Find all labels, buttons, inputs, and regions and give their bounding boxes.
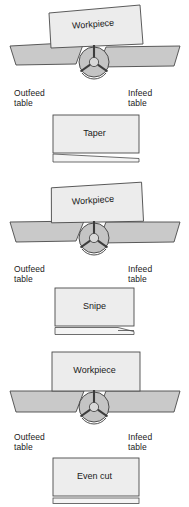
taper-wedge-shape bbox=[53, 154, 139, 162]
machine-illustration-even-cut: Outfeed table Infeed table Workpiece bbox=[0, 344, 189, 439]
outfeed-table-label-even-cut: Outfeed table bbox=[14, 432, 45, 452]
result-snipe: Snipe bbox=[0, 286, 189, 338]
jointer-machine-svg-even-cut bbox=[0, 344, 189, 439]
result-taper-svg bbox=[0, 113, 189, 165]
result-label-taper: Taper bbox=[0, 128, 189, 138]
infeed-table-shape bbox=[98, 46, 180, 67]
result-taper: Taper bbox=[0, 113, 189, 165]
result-label-snipe: Snipe bbox=[0, 301, 189, 311]
machine-illustration-snipe: Outfeed table Infeed table Workpiece bbox=[0, 172, 189, 267]
outfeed-table-shape bbox=[10, 221, 84, 242]
panel-snipe: Outfeed table Infeed table Workpiece Sni… bbox=[0, 172, 189, 342]
panel-taper: Outfeed table Infeed table Workpiece Tap… bbox=[0, 0, 189, 170]
machine-illustration-taper: Outfeed table Infeed table Workpiece bbox=[0, 0, 189, 95]
infeed-table-shape bbox=[98, 222, 180, 243]
even-cut-strip-shape bbox=[53, 498, 139, 504]
workpiece-label-even-cut: Workpiece bbox=[0, 365, 189, 375]
result-label-even-cut: Even cut bbox=[0, 471, 189, 481]
panel-even-cut: Outfeed table Infeed table Workpiece Eve… bbox=[0, 344, 189, 507]
infeed-table-shape bbox=[98, 391, 180, 412]
snipe-notch-shape bbox=[55, 328, 134, 335]
outfeed-table-shape bbox=[10, 391, 84, 412]
result-even-cut-svg bbox=[0, 456, 189, 507]
result-snipe-svg bbox=[0, 286, 189, 338]
outfeed-table-label-taper: Outfeed table bbox=[14, 88, 45, 108]
result-even-cut: Even cut bbox=[0, 456, 189, 507]
infeed-table-label-taper: Infeed table bbox=[128, 88, 152, 108]
jointer-results-diagram: Outfeed table Infeed table Workpiece Tap… bbox=[0, 0, 189, 507]
infeed-table-label-even-cut: Infeed table bbox=[128, 432, 152, 452]
infeed-table-label-snipe: Infeed table bbox=[128, 264, 152, 284]
jointer-machine-svg-snipe bbox=[0, 172, 189, 267]
outfeed-table-label-snipe: Outfeed table bbox=[14, 264, 45, 284]
